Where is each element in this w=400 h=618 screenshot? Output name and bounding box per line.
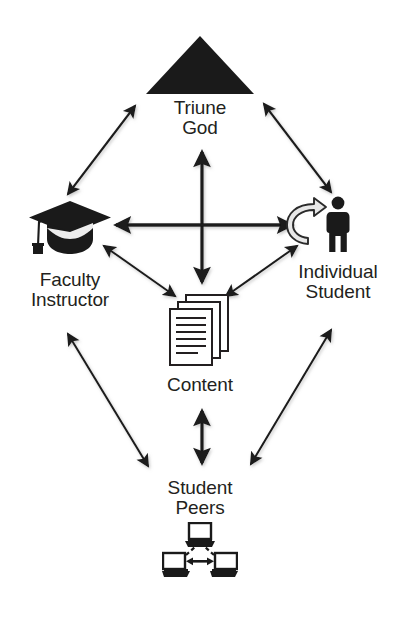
computer-right-icon bbox=[210, 553, 238, 577]
black-triangle-icon bbox=[144, 34, 256, 96]
stacked-documents-icon bbox=[164, 292, 236, 372]
computer-left-icon bbox=[162, 553, 190, 577]
node-triune-god-label: Triune God bbox=[135, 98, 265, 138]
node-content-label: Content bbox=[148, 375, 252, 395]
edge-student-to-triune-god bbox=[264, 104, 331, 192]
network-connector-icon bbox=[186, 547, 214, 555]
person-with-self-reflection-arrows-icon bbox=[282, 194, 394, 258]
node-content[interactable]: Content bbox=[148, 292, 252, 395]
edge-student-to-peers bbox=[251, 330, 331, 464]
person-figure-icon bbox=[327, 197, 350, 252]
node-faculty-instructor[interactable]: Faculty Instructor bbox=[6, 198, 134, 310]
edge-faculty-to-peers bbox=[68, 334, 148, 466]
node-triune-god[interactable]: Triune God bbox=[135, 34, 265, 138]
node-individual-student-label: Individual Student bbox=[276, 262, 400, 302]
node-student-peers-label: Student Peers bbox=[135, 478, 265, 518]
computer-top-icon bbox=[185, 523, 215, 547]
node-student-peers[interactable]: Student Peers bbox=[135, 478, 265, 584]
node-individual-student[interactable]: Individual Student bbox=[276, 194, 400, 302]
graduation-cap-icon bbox=[27, 198, 113, 264]
networked-computers-icon bbox=[162, 522, 238, 584]
network-double-arrow-icon bbox=[186, 557, 214, 565]
node-faculty-instructor-label: Faculty Instructor bbox=[6, 270, 134, 310]
edge-faculty-to-triune-god bbox=[68, 106, 135, 194]
left-curved-arrow-icon bbox=[287, 198, 326, 244]
diagram-canvas: Triune God (upper-left diagonal) --> Tri… bbox=[0, 0, 400, 618]
